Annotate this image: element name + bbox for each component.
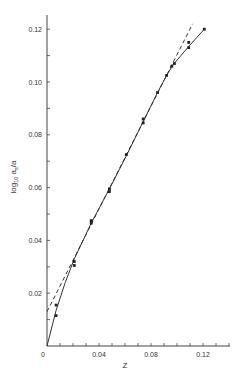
data-point [108,188,111,191]
data-point [142,118,145,121]
x-tick-label: 0 [41,351,45,358]
data-point [125,153,128,156]
y-title-prefix: log [9,183,18,194]
data-point [55,304,58,307]
x-tick-label: 0.04 [92,351,106,358]
data-point [173,62,176,65]
y-tick-label: 0.08 [28,131,42,138]
y-tick-label: 0.04 [28,237,42,244]
series-layer [47,24,206,346]
chart: 00.040.080.12 0.020.040.060.080.100.12 Z… [0,0,243,380]
y-axis-title: log10 as/a [9,160,19,193]
data-point [203,28,206,31]
y-tick-label: 0.10 [28,79,42,86]
data-point [73,264,76,267]
data-point [90,222,93,225]
fitted-curve-line [47,29,204,346]
x-ticks: 00.040.080.12 [41,343,229,358]
data-point [187,41,190,44]
y-tick-label: 0.02 [28,290,42,297]
data-point [55,314,58,317]
x-tick-label: 0.08 [144,351,158,358]
x-tick-label: 0.12 [196,351,210,358]
axes: 00.040.080.12 0.020.040.060.080.100.12 [28,15,230,358]
data-point [142,122,145,125]
x-axis-title: Z [123,361,128,370]
y-tick-label: 0.12 [28,26,42,33]
y-title-suffix: /a [9,160,18,167]
data-point [187,46,190,49]
data-point [90,219,93,222]
data-point [73,260,76,263]
data-point [165,74,168,77]
data-point [170,65,173,68]
data-point [156,91,159,94]
data-point [108,190,111,193]
y-tick-label: 0.06 [28,184,42,191]
